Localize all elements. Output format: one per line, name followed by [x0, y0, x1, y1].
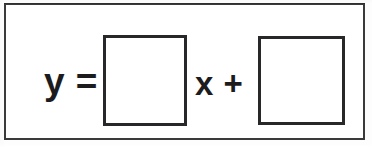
equation-operator-label: x +: [195, 67, 243, 100]
equation-lhs-label: y =: [44, 63, 98, 100]
slope-input-box[interactable]: [103, 35, 187, 126]
worksheet-screenshot: y = x +: [0, 0, 372, 149]
slope-input-value: [106, 38, 184, 123]
equation-panel-frame: y = x +: [4, 3, 365, 140]
intercept-input-value: [261, 39, 342, 122]
equation-row: y = x +: [6, 5, 363, 138]
bottom-edge-shade: [0, 143, 372, 149]
intercept-input-box[interactable]: [258, 36, 345, 125]
